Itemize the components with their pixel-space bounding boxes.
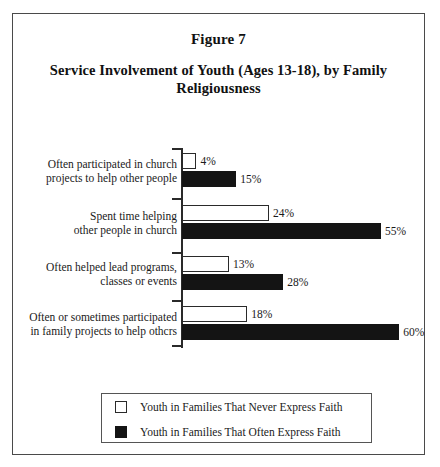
- legend-label: Youth in Families That Never Express Fai…: [140, 401, 342, 413]
- bar-group: Often participated in church projects to…: [13, 146, 423, 196]
- legend-swatch-black-square: [115, 426, 127, 438]
- bar-row-often: 15%: [182, 171, 422, 187]
- bar-row-never: 24%: [182, 205, 422, 221]
- bar-row-often: 60%: [182, 324, 422, 340]
- bar-often-express-faith: [182, 274, 283, 290]
- bar-value-label: 55%: [381, 225, 406, 237]
- axis-tick: [172, 198, 182, 200]
- chart-plot-area: Often participated in church projects to…: [13, 140, 423, 355]
- bar-group: Often or sometimes participated in famil…: [13, 298, 423, 350]
- bar-row-often: 28%: [182, 274, 422, 290]
- legend-label: Youth in Families That Often Express Fai…: [140, 426, 341, 438]
- figure-title: Service Involvement of Youth (Ages 13-18…: [35, 61, 402, 97]
- bar-row-never: 18%: [182, 306, 422, 322]
- bar-often-express-faith: [182, 171, 236, 187]
- axis-tick: [172, 252, 182, 254]
- bar-never-express-faith: [182, 306, 247, 322]
- axis-tick: [172, 345, 182, 347]
- bar-row-never: 13%: [182, 256, 422, 272]
- bar-value-label: 13%: [229, 258, 254, 270]
- bar-pair: 13% 28%: [182, 254, 422, 294]
- bar-often-express-faith: [182, 223, 381, 239]
- bar-value-label: 15%: [236, 173, 261, 185]
- category-label: Spent time helping other people in churc…: [27, 209, 177, 238]
- bar-value-label: 28%: [283, 276, 308, 288]
- bar-pair: 4% 15%: [182, 151, 422, 191]
- bar-value-label: 4%: [196, 155, 215, 167]
- bar-row-often: 55%: [182, 223, 422, 239]
- legend-swatch-white-square: [115, 401, 127, 413]
- axis-tick: [172, 300, 182, 302]
- axis-tick: [172, 148, 182, 150]
- bar-group: Spent time helping other people in churc…: [13, 196, 423, 250]
- legend-entry-never: Youth in Families That Never Express Fai…: [102, 394, 371, 419]
- category-label: Often participated in church projects to…: [27, 157, 177, 186]
- bar-never-express-faith: [182, 153, 196, 169]
- bar-pair: 24% 55%: [182, 203, 422, 243]
- bar-pair: 18% 60%: [182, 304, 422, 344]
- category-label: Often helped lead programs, classes or e…: [27, 260, 177, 289]
- bar-value-label: 24%: [269, 207, 294, 219]
- bar-value-label: 60%: [399, 326, 424, 338]
- figure-frame: Figure 7 Service Involvement of Youth (A…: [12, 13, 425, 455]
- category-label: Often or sometimes participated in famil…: [27, 310, 177, 339]
- bar-never-express-faith: [182, 256, 229, 272]
- page-top-artifact: [200, 0, 410, 8]
- bar-never-express-faith: [182, 205, 269, 221]
- bar-row-never: 4%: [182, 153, 422, 169]
- legend-entry-often: Youth in Families That Often Express Fai…: [102, 419, 371, 444]
- figure-number: Figure 7: [13, 31, 424, 48]
- bar-often-express-faith: [182, 324, 399, 340]
- bar-group: Often helped lead programs, classes or e…: [13, 250, 423, 298]
- chart-legend: Youth in Families That Never Express Fai…: [101, 393, 372, 443]
- bar-value-label: 18%: [247, 308, 272, 320]
